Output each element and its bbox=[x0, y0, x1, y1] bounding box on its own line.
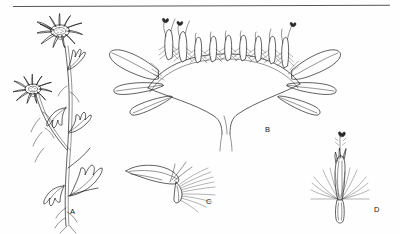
panel-a-label: A bbox=[70, 207, 75, 216]
panel-b-label: B bbox=[265, 125, 270, 134]
panel-c-label: C bbox=[206, 197, 212, 206]
illustration-plate: A bbox=[0, 0, 400, 234]
plate-canvas: A bbox=[0, 0, 400, 234]
panel-d-label: D bbox=[374, 205, 380, 214]
